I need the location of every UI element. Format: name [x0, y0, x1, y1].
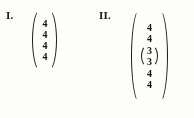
- scanned-page: I. 4 4 4 4 II. 4 4 3 3: [0, 0, 194, 118]
- right-parenthesis-icon: [159, 8, 168, 104]
- expression-item-2: II. 4 4 3 3 4 4: [99, 8, 168, 104]
- right-parenthesis-icon: [48, 8, 57, 72]
- expression-item-1: I. 4 4 4 4: [6, 8, 57, 72]
- left-parenthesis-icon: [131, 8, 140, 104]
- expression-label-1: I.: [6, 8, 13, 21]
- matrix-1: 4 4 4 4: [32, 8, 57, 72]
- matrix-2: 4 4 3 3 4 4: [131, 8, 168, 104]
- expression-label-2: II.: [99, 8, 111, 21]
